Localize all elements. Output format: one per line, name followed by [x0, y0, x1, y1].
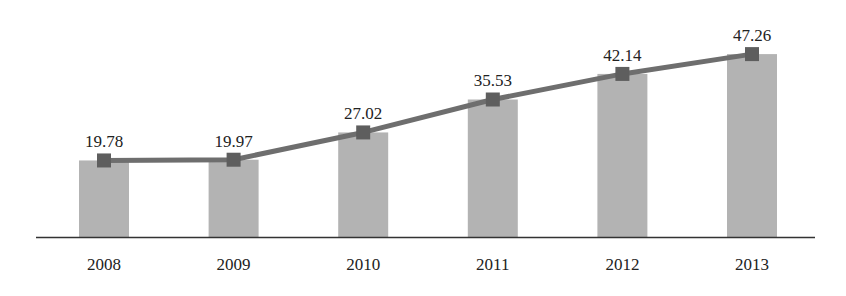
- x-tick-2013: 2013: [735, 255, 769, 274]
- x-axis-tick-labels: 200820092010201120122013: [87, 255, 769, 274]
- marker-2009: [227, 153, 241, 167]
- bar-2011: [468, 99, 518, 237]
- bar-2008: [79, 160, 129, 237]
- data-label-2012: 42.14: [603, 46, 642, 65]
- bar-2009: [209, 160, 259, 237]
- x-tick-2012: 2012: [605, 255, 639, 274]
- bar-2012: [597, 74, 647, 237]
- line-markers: [97, 47, 759, 167]
- marker-2013: [745, 47, 759, 61]
- marker-2012: [615, 67, 629, 81]
- bar-series: [79, 54, 777, 237]
- bar-2013: [727, 54, 777, 237]
- data-label-2008: 19.78: [85, 132, 123, 151]
- data-labels: 19.7819.9727.0235.5342.1447.26: [85, 26, 771, 151]
- x-tick-2008: 2008: [87, 255, 121, 274]
- marker-2011: [486, 92, 500, 106]
- line-series: [104, 54, 752, 160]
- data-label-2009: 19.97: [214, 132, 253, 151]
- x-tick-2009: 2009: [217, 255, 251, 274]
- bar-line-chart: 19.7819.9727.0235.5342.1447.26 200820092…: [0, 0, 846, 296]
- data-label-2013: 47.26: [733, 26, 771, 45]
- marker-2010: [356, 125, 370, 139]
- bar-2010: [338, 132, 388, 237]
- x-tick-2010: 2010: [346, 255, 380, 274]
- data-label-2011: 35.53: [474, 71, 512, 90]
- x-tick-2011: 2011: [476, 255, 509, 274]
- data-label-2010: 27.02: [344, 104, 382, 123]
- marker-2008: [97, 153, 111, 167]
